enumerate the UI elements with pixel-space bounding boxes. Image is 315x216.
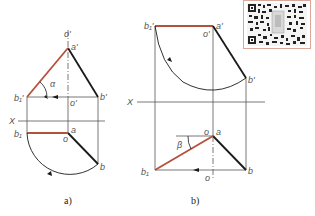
label-o-b: o <box>204 127 209 137</box>
label-x-axis-b: X <box>126 97 134 107</box>
beta-angle-arc <box>188 136 191 149</box>
label-b: b <box>100 162 105 172</box>
label-b-b: b <box>248 166 253 176</box>
label-o-bottom-b: o <box>205 173 210 183</box>
label-a-prime-b: a' <box>216 21 223 31</box>
horizontal-arrow-icon <box>52 95 58 99</box>
label-o-prime-top: o' <box>64 29 71 39</box>
panel-a: o' a' b₁' b' o' α X b₁ a o b a) <box>8 29 107 207</box>
horizontal-arrow-icon-b <box>193 168 199 172</box>
label-b-prime: b' <box>100 92 107 102</box>
label-b1-b: b₁ <box>141 167 149 177</box>
label-b1: b₁ <box>14 129 22 139</box>
arc-arrow-icon-b <box>167 57 172 62</box>
label-beta: β <box>176 140 182 150</box>
line-aprime-b1prime-true-length <box>27 48 68 97</box>
line-aprime-bprime-b <box>213 26 246 78</box>
caption-a: a) <box>64 195 72 207</box>
arc-arrow-icon <box>47 171 52 176</box>
qr-pattern <box>244 1 310 48</box>
label-o-prime-mid: o' <box>70 98 77 108</box>
caption-b: b) <box>191 195 199 207</box>
label-b-prime-b: b' <box>248 75 255 85</box>
label-x-axis: X <box>8 116 16 126</box>
label-b1-prime-b: b₁' <box>144 21 154 31</box>
line-aprime-bprime <box>68 48 98 97</box>
line-a-b <box>68 133 98 164</box>
alpha-angle-arc <box>40 82 47 97</box>
label-a-prime: a' <box>71 42 78 52</box>
label-a: a <box>71 125 76 135</box>
label-alpha: α <box>50 79 56 89</box>
label-b1-prime: b₁' <box>14 93 24 103</box>
label-o-prime-b: o' <box>203 29 210 39</box>
line-a-b-b <box>213 136 246 170</box>
qr-code-icon[interactable] <box>243 0 311 49</box>
line-a-b1-b <box>155 136 213 170</box>
label-o: o <box>63 134 68 144</box>
label-a-b: a <box>216 127 221 137</box>
